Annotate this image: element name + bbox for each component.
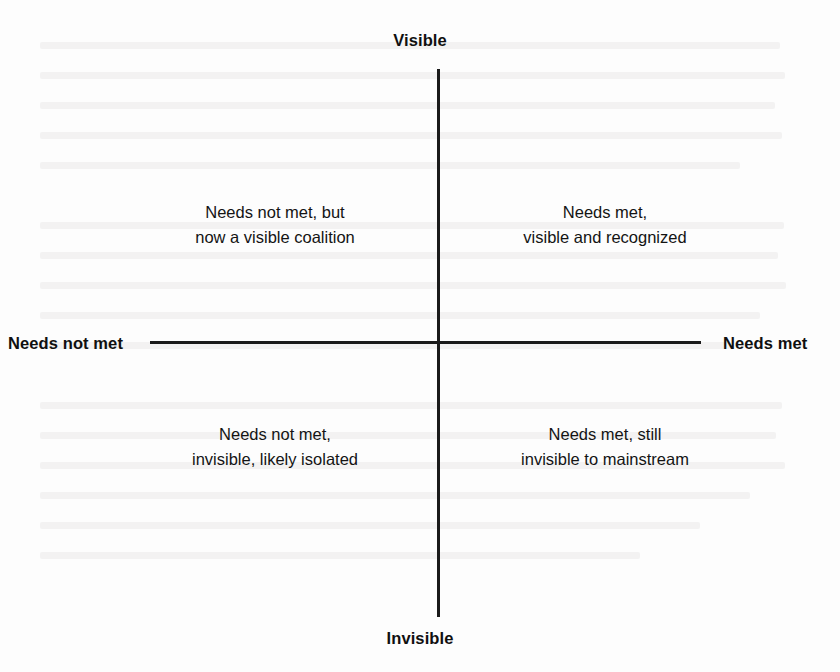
quadrant-bottom-right: Needs met, still invisible to mainstream: [465, 422, 745, 472]
axis-label-needs-met: Needs met: [723, 334, 807, 353]
vertical-axis-line: [437, 69, 440, 617]
quadrant-top-left-line-1: Needs not met, but: [135, 200, 415, 225]
quadrant-top-right: Needs met, visible and recognized: [465, 200, 745, 250]
quadrant-top-right-line-2: visible and recognized: [465, 225, 745, 250]
quadrant-bottom-left-line-1: Needs not met,: [135, 422, 415, 447]
quadrant-top-left-line-2: now a visible coalition: [135, 225, 415, 250]
quadrant-bottom-left-line-2: invisible, likely isolated: [135, 447, 415, 472]
horizontal-axis-line: [150, 341, 701, 344]
axis-label-needs-not-met: Needs not met: [8, 334, 123, 353]
quadrant-bottom-left: Needs not met, invisible, likely isolate…: [135, 422, 415, 472]
quadrant-top-right-line-1: Needs met,: [465, 200, 745, 225]
scan-bleedthrough-artifact: [0, 0, 840, 672]
quadrant-diagram: Visible Invisible Needs not met Needs me…: [0, 0, 840, 672]
axis-label-invisible: Invisible: [0, 629, 840, 648]
quadrant-bottom-right-line-1: Needs met, still: [465, 422, 745, 447]
axis-label-visible: Visible: [0, 31, 840, 50]
quadrant-bottom-right-line-2: invisible to mainstream: [465, 447, 745, 472]
quadrant-top-left: Needs not met, but now a visible coaliti…: [135, 200, 415, 250]
